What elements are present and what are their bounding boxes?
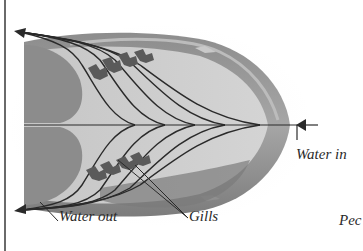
water-out-lower-arrow: [14, 204, 26, 214]
label-gills: Gills: [189, 209, 218, 224]
water-out-upper-arrow: [14, 28, 26, 38]
fish-gill-diagram: [0, 0, 363, 251]
label-water-out: Water out: [59, 209, 117, 224]
label-cut-off-text: Pec: [339, 213, 361, 228]
label-water-in: Water in: [296, 147, 347, 162]
